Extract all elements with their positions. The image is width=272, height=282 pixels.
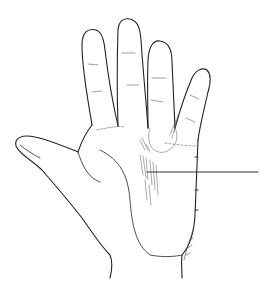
thumb [16,125,112,278]
hand-illustration [0,0,272,282]
middle-finger [117,19,148,128]
finger-creases [88,53,199,122]
ring-finger [148,41,175,128]
thenar-palm-line [100,150,182,257]
little-finger [175,69,210,140]
index-finger [82,30,118,126]
distal-crease [97,127,124,130]
ring-crease [165,143,197,146]
thenar-crease [78,152,100,182]
thumb-nail-line [20,145,40,158]
palm-ulnar-edge [182,140,198,278]
palm-shading [140,115,178,205]
